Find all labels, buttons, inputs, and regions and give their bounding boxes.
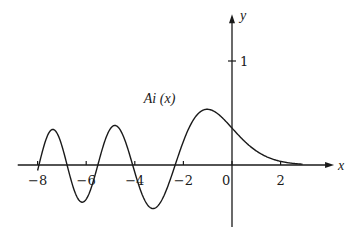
y-ticks: 1 (228, 54, 248, 69)
y-axis-label: y (238, 8, 247, 23)
x-tick-label: −4 (125, 173, 144, 188)
x-tick-label: 2 (276, 173, 284, 188)
x-axis-arrow-icon (325, 162, 334, 168)
x-tick-label: −8 (28, 173, 47, 188)
curve-label: Ai (x) (143, 91, 176, 107)
airy-curve (38, 109, 303, 208)
x-tick-label: 0 (222, 173, 230, 188)
x-axis-label: x (337, 158, 345, 173)
axes: x y (18, 8, 345, 227)
x-tick-label: −2 (174, 173, 193, 188)
y-axis-arrow-icon (229, 14, 235, 23)
airy-function-plot: x y −8−6−4−202 1 Ai (x) (0, 0, 355, 227)
y-tick-label: 1 (240, 54, 248, 69)
